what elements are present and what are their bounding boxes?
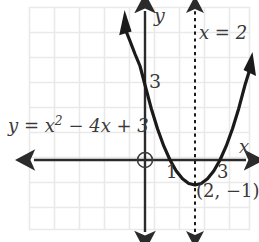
axis-of-symmetry-label: x = 2 (199, 24, 247, 42)
y-axis-label: y (154, 6, 165, 25)
root-tick-label-3: 3 (217, 163, 228, 181)
equation-suffix: − 4x + 3 (63, 115, 149, 136)
x-axis-label: x (239, 138, 249, 156)
y-intercept-tick-label: 3 (149, 72, 161, 91)
parabola-graph-figure: y x 3 1 3 (2, −1) x = 2 y = x2 − 4x + 3 (0, 0, 259, 242)
equation-label: y = x2 − 4x + 3 (8, 115, 149, 135)
equation-exponent: 2 (55, 114, 63, 128)
vertex-label: (2, −1) (196, 182, 259, 200)
root-tick-label-1: 1 (166, 163, 177, 181)
equation-prefix: y = x (8, 115, 55, 136)
